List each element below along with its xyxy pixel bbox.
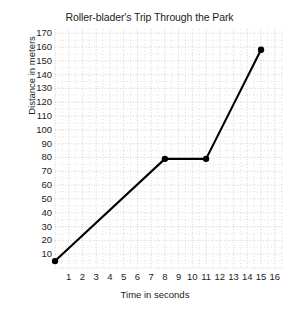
data-series-line bbox=[55, 29, 283, 268]
series-polyline bbox=[55, 50, 261, 261]
data-point-marker bbox=[162, 156, 168, 162]
data-point-marker bbox=[258, 47, 264, 53]
data-point-marker bbox=[52, 258, 58, 264]
plot-area bbox=[55, 29, 283, 268]
data-point-marker bbox=[203, 156, 209, 162]
line-chart: Roller-blader's Trip Through the Park Di… bbox=[0, 0, 299, 310]
x-tick-label: 16 bbox=[267, 272, 283, 282]
